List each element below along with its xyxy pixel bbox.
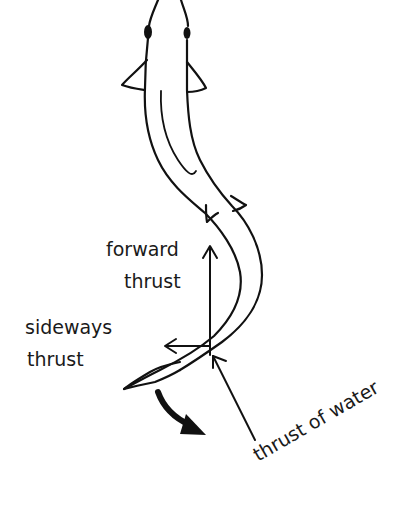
tail-motion-arrow: [158, 392, 206, 435]
forward-thrust-label-line1: forward: [106, 240, 179, 259]
fish-body: [122, 0, 262, 389]
water-thrust-arrow: [213, 356, 255, 440]
sideways-thrust-label-line1: sideways: [25, 318, 112, 337]
right-eye-icon: [184, 27, 191, 39]
sideways-thrust-label-line2: thrust: [27, 350, 84, 369]
forward-thrust-label-line2: thrust: [124, 272, 181, 291]
forward-thrust-arrow: [203, 246, 217, 355]
sideways-thrust-arrow: [165, 339, 210, 353]
fish-thrust-diagram: [0, 0, 416, 531]
